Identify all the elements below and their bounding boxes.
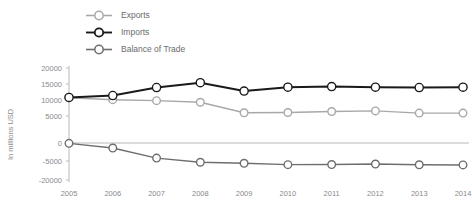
legend-item-imports[interactable]: Imports — [86, 27, 149, 37]
x-axis-labels: 2005200620072008200920102011201220132014 — [61, 189, 472, 198]
series-line — [69, 143, 463, 165]
data-point-marker[interactable] — [415, 83, 423, 91]
legend-label-imports: Imports — [121, 27, 149, 37]
data-point-marker[interactable] — [197, 158, 205, 166]
x-tick-label: 2008 — [192, 189, 209, 198]
data-point-marker[interactable] — [372, 107, 380, 115]
legend-label-balance-of-trade: Balance of Trade — [121, 44, 186, 54]
chart-legend: Exports Imports Balance of Trade — [86, 10, 186, 54]
data-point-marker[interactable] — [240, 87, 248, 95]
data-point-marker[interactable] — [459, 83, 467, 91]
x-tick-label: 2009 — [236, 189, 253, 198]
data-point-marker[interactable] — [109, 91, 117, 99]
legend-marker-balance-of-trade — [95, 45, 103, 53]
data-point-marker[interactable] — [372, 160, 380, 168]
series-imports — [65, 79, 467, 102]
x-tick-label: 2011 — [324, 189, 340, 198]
data-point-marker[interactable] — [284, 83, 292, 91]
y-tick-label: 10000 — [41, 96, 62, 105]
data-point-marker[interactable] — [153, 97, 161, 105]
x-tick-label: 2014 — [455, 189, 472, 198]
data-point-marker[interactable] — [240, 159, 248, 167]
y-tick-label: -5000 — [43, 157, 62, 166]
y-tick-label: 5000 — [45, 112, 62, 121]
x-tick-label: 2007 — [148, 189, 165, 198]
y-tick-label: 0 — [58, 139, 62, 148]
series-line — [69, 98, 463, 113]
axis-layer: 20000150001000050000-5000-20000 — [39, 64, 469, 185]
chart-canvas: Exports Imports Balance of Trade In mill… — [0, 0, 472, 209]
x-tick-label: 2006 — [104, 189, 121, 198]
legend-item-exports[interactable]: Exports — [86, 10, 150, 20]
data-point-marker[interactable] — [153, 154, 161, 162]
data-point-marker[interactable] — [328, 161, 336, 169]
data-point-marker[interactable] — [459, 109, 467, 117]
data-point-marker[interactable] — [65, 93, 73, 101]
x-tick-label: 2010 — [280, 189, 297, 198]
series-layer — [65, 79, 467, 169]
legend-label-exports: Exports — [121, 10, 150, 20]
data-point-marker[interactable] — [328, 108, 336, 116]
data-point-marker[interactable] — [284, 161, 292, 169]
x-tick-label: 2013 — [411, 189, 428, 198]
data-point-marker[interactable] — [240, 109, 248, 117]
series-line — [69, 83, 463, 98]
data-point-marker[interactable] — [109, 144, 117, 152]
y-tick-label: -20000 — [39, 176, 62, 185]
data-point-marker[interactable] — [371, 83, 379, 91]
data-point-marker[interactable] — [152, 83, 160, 91]
x-tick-label: 2005 — [61, 189, 78, 198]
data-point-marker[interactable] — [459, 161, 467, 169]
data-point-marker[interactable] — [415, 161, 423, 169]
series-balance-of-trade — [65, 140, 467, 169]
trade-line-chart: Exports Imports Balance of Trade In mill… — [0, 0, 472, 209]
legend-marker-imports — [95, 28, 103, 36]
data-point-marker[interactable] — [196, 79, 204, 87]
legend-item-balance-of-trade[interactable]: Balance of Trade — [86, 44, 186, 54]
data-point-marker[interactable] — [65, 140, 73, 148]
y-tick-label: 15000 — [41, 80, 62, 89]
data-point-marker[interactable] — [328, 82, 336, 90]
series-exports — [65, 94, 467, 117]
x-tick-label: 2012 — [367, 189, 384, 198]
y-tick-label: 20000 — [41, 64, 62, 73]
data-point-marker[interactable] — [415, 109, 423, 117]
data-point-marker[interactable] — [284, 109, 292, 117]
y-axis-title: In millions USD — [6, 108, 15, 160]
legend-marker-exports — [95, 11, 103, 19]
data-point-marker[interactable] — [197, 98, 205, 106]
